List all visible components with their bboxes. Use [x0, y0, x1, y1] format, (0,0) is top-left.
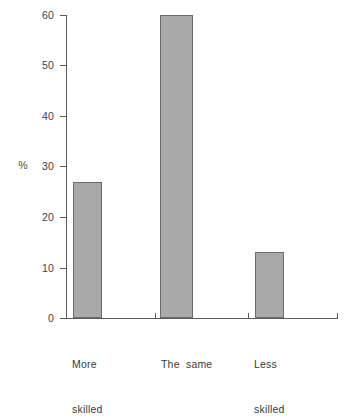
y-tick-40	[60, 116, 67, 117]
y-axis-line	[66, 15, 67, 319]
y-tick-label-50: 50	[12, 59, 54, 71]
x-tick-3	[337, 313, 338, 319]
bar-more-skilled	[73, 182, 102, 318]
y-tick-label-0: 0	[12, 312, 54, 324]
y-tick-30	[60, 166, 67, 167]
x-category-label-more-skilled-line2: skilled	[72, 402, 103, 417]
x-category-label-more-skilled-line1: More	[72, 357, 103, 372]
x-category-label-the-same: The same	[161, 327, 212, 402]
x-category-label-less-skilled: Less skilled	[254, 327, 285, 417]
x-tick-2	[248, 313, 249, 319]
y-tick-10	[60, 268, 67, 269]
x-category-label-less-skilled-line1: Less	[254, 357, 285, 372]
x-category-label-more-skilled: More skilled	[72, 327, 103, 417]
y-tick-60	[60, 15, 67, 16]
y-tick-label-40: 40	[12, 110, 54, 122]
y-tick-50	[60, 65, 67, 66]
bar-the-same	[160, 15, 193, 318]
y-tick-label-30: 30	[12, 160, 54, 172]
bar-less-skilled	[255, 252, 284, 318]
y-tick-label-20: 20	[12, 211, 54, 223]
x-tick-1	[155, 313, 156, 319]
x-category-label-less-skilled-line2: skilled	[254, 402, 285, 417]
y-tick-20	[60, 217, 67, 218]
x-tick-0	[66, 313, 67, 319]
x-axis-line	[66, 318, 338, 319]
y-tick-label-10: 10	[12, 262, 54, 274]
x-category-label-the-same-line1: The same	[161, 357, 212, 372]
y-tick-label-60: 60	[12, 9, 54, 21]
